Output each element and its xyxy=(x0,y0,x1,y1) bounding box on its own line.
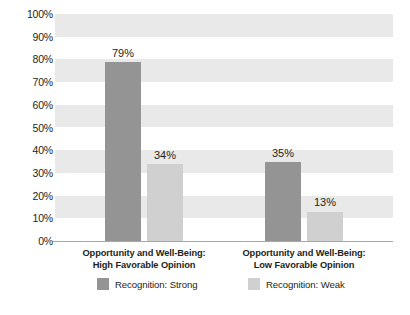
y-axis-tick-label: 70% xyxy=(0,77,53,88)
y-axis-tick-label: 40% xyxy=(0,145,53,156)
bar-value-label: 79% xyxy=(95,48,151,59)
gridline-band xyxy=(55,14,393,37)
bar-strong xyxy=(265,162,301,241)
y-axis-tick-label: 100% xyxy=(0,9,53,20)
category-label: Opportunity and Well-Being:High Favorabl… xyxy=(54,247,234,272)
legend-label: Recognition: Strong xyxy=(115,279,197,290)
legend-label: Recognition: Weak xyxy=(266,279,345,290)
category-label-line: Low Favorable Opinion xyxy=(214,259,394,271)
y-axis-tick-label: 80% xyxy=(0,54,53,65)
legend-swatch-icon xyxy=(248,278,260,290)
bar-value-label: 34% xyxy=(137,150,193,161)
legend-swatch-icon xyxy=(97,278,109,290)
bar-value-label: 35% xyxy=(255,148,311,159)
bar-value-label: 13% xyxy=(297,197,353,208)
y-axis-tick-label: 60% xyxy=(0,100,53,111)
category-label-line: Opportunity and Well-Being: xyxy=(54,247,234,259)
bar-weak xyxy=(147,164,183,241)
y-axis-tick-label: 20% xyxy=(0,191,53,202)
legend-item[interactable]: Recognition: Weak xyxy=(248,277,345,291)
category-label-line: Opportunity and Well-Being: xyxy=(214,247,394,259)
y-axis-tick-label: 10% xyxy=(0,213,53,224)
category-label: Opportunity and Well-Being:Low Favorable… xyxy=(214,247,394,272)
x-axis-line xyxy=(53,241,393,242)
bar-strong xyxy=(105,62,141,241)
y-axis-tick-label: 30% xyxy=(0,168,53,179)
y-axis-tick-label: 90% xyxy=(0,32,53,43)
category-label-line: High Favorable Opinion xyxy=(54,259,234,271)
y-axis-tick-label: 0% xyxy=(0,236,53,247)
y-axis-tick-label: 50% xyxy=(0,123,53,134)
bar-weak xyxy=(307,212,343,242)
bar-chart: 100%90%80%70%60%50%40%30%20%10%0% 79%34%… xyxy=(0,0,410,315)
legend-item[interactable]: Recognition: Strong xyxy=(97,277,197,291)
